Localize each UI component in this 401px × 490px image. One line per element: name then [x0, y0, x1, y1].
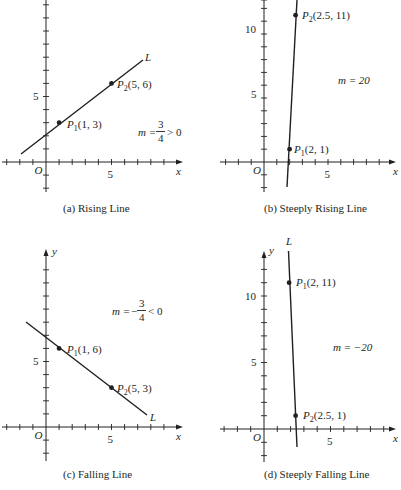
- line-l: [21, 60, 143, 154]
- x-axis-arrow-icon: [389, 160, 396, 165]
- slope-annotation: m = 3 4 > 0: [138, 118, 182, 144]
- y-tick-label-5: 5: [33, 90, 39, 102]
- x-axis-arrow-icon: [176, 160, 183, 165]
- svg-text:> 0: > 0: [167, 126, 182, 138]
- point-p1: [287, 147, 292, 152]
- point-p2: [293, 413, 298, 418]
- point-p1: [57, 346, 62, 351]
- caption-b: (b) Steeply Rising Line: [264, 202, 367, 215]
- y-axis-arrow-icon: [44, 249, 49, 256]
- line-label: L: [144, 51, 151, 63]
- caption-d: (d) Steeply Falling Line: [264, 468, 370, 481]
- svg-text:m =: m =: [112, 305, 130, 317]
- panel-a-rising-line: 5 5 O x L P1(1, 3) P2(5, 6) m = 3 4 > 0 …: [2, 0, 183, 215]
- origin-label: O: [253, 164, 261, 176]
- origin-label: O: [35, 164, 43, 176]
- point-p1: [57, 120, 62, 125]
- caption-c: (c) Falling Line: [63, 468, 132, 481]
- origin-label: O: [253, 431, 261, 443]
- point-p1-label: P1(2, 1): [293, 143, 329, 158]
- y-tick-label-5: 5: [251, 88, 257, 100]
- slope-annotation: m = − 3 4 < 0: [112, 297, 163, 323]
- x-axis-label: x: [175, 430, 181, 442]
- y-tick-label-10: 10: [245, 23, 257, 35]
- point-p1: [287, 280, 292, 285]
- svg-text:4: 4: [139, 311, 145, 323]
- x-axis-label: x: [175, 165, 181, 177]
- panel-c-falling-line: 5 5 O x y L P1(1, 6) P2(5, 3) m = − 3 4 …: [2, 245, 183, 481]
- y-axis-label: y: [51, 245, 57, 257]
- point-p2: [293, 13, 298, 18]
- point-p2: [109, 81, 114, 86]
- slope-annotation: m = −20: [333, 341, 373, 353]
- x-axis-arrow-icon: [389, 427, 396, 432]
- point-p2-label: P2(2.5, 11): [301, 9, 350, 24]
- y-tick-label-10: 10: [245, 290, 257, 302]
- line-label: L: [285, 235, 292, 247]
- x-axis-label: x: [392, 432, 398, 444]
- svg-text:3: 3: [139, 297, 145, 309]
- slope-figure: 5 5 O x L P1(1, 3) P2(5, 6) m = 3 4 > 0 …: [0, 0, 401, 490]
- svg-text:4: 4: [158, 132, 164, 144]
- caption-a: (a) Rising Line: [63, 202, 130, 215]
- x-tick-label-5: 5: [327, 435, 333, 447]
- x-axis-arrow-icon: [176, 425, 183, 430]
- panel-d-steeply-falling-line: 5 5 10 O x y L P1(2, 11) P2(2.5, 1) m = …: [220, 235, 398, 481]
- point-p2: [109, 385, 114, 390]
- point-p1-label: P1(2, 11): [295, 276, 336, 291]
- svg-text:m =: m =: [138, 126, 156, 138]
- line-label: L: [149, 411, 156, 423]
- y-tick-label-5: 5: [251, 356, 257, 368]
- y-axis-label: y: [268, 244, 274, 256]
- x-axis-label: x: [392, 165, 398, 177]
- y-axis-arrow-icon: [262, 251, 267, 258]
- panel-b-steeply-rising-line: 5 5 10 O x P1(2, 1) P2(2.5, 11) m = 20 (…: [220, 0, 398, 215]
- svg-text:3: 3: [158, 118, 164, 130]
- x-tick-label-5: 5: [108, 168, 114, 180]
- line-l: [287, 0, 297, 187]
- y-tick-label-5: 5: [33, 355, 39, 367]
- svg-text:< 0: < 0: [148, 305, 163, 317]
- point-p1-label: P1(1, 6): [66, 343, 102, 358]
- point-p2-label: P2(2.5, 1): [302, 409, 346, 424]
- origin-label: O: [35, 429, 43, 441]
- point-p1-label: P1(1, 3): [66, 118, 102, 133]
- x-tick-label-5: 5: [325, 168, 331, 180]
- point-p2-label: P2(5, 6): [116, 78, 152, 93]
- svg-text:−: −: [131, 305, 137, 317]
- x-tick-label-5: 5: [108, 433, 114, 445]
- slope-annotation: m = 20: [338, 74, 370, 86]
